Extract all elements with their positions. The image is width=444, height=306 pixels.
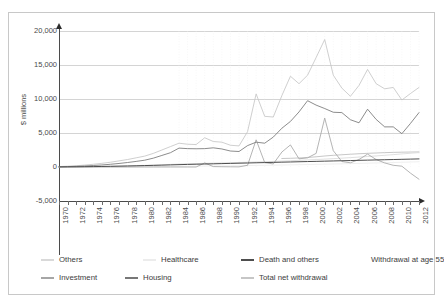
x-tick (119, 201, 120, 205)
x-tick (316, 201, 317, 205)
x-tick (145, 201, 146, 205)
x-tick (205, 201, 206, 205)
x-tick-label: 1980 (148, 207, 156, 224)
x-tick (376, 201, 377, 205)
legend-item-label: Withdrawal at age 55 (371, 253, 444, 267)
x-tick (68, 201, 69, 205)
legend-row-2: InvestmentHousingTotal net withdrawal (23, 271, 423, 287)
series-line (59, 40, 419, 167)
x-tick (196, 201, 197, 205)
x-tick (162, 201, 163, 205)
x-tick (128, 201, 129, 205)
x-tick-label: 1998 (302, 207, 310, 224)
x-tick (393, 201, 394, 205)
x-tick (290, 201, 291, 205)
x-tick (222, 201, 223, 205)
x-tick-label: 2012 (422, 207, 430, 224)
x-tick (299, 201, 300, 205)
legend-item-label: Housing (143, 271, 172, 285)
y-tick-label: 5,000 (23, 129, 57, 137)
x-tick-label: 2008 (388, 207, 396, 224)
legend-color-swatch (143, 259, 156, 261)
x-tick (410, 201, 411, 205)
x-tick (85, 201, 86, 205)
x-tick (325, 201, 326, 205)
x-tick-label: 2006 (371, 207, 379, 224)
x-tick-label: 1996 (285, 207, 293, 224)
x-tick (273, 201, 274, 205)
x-tick (170, 201, 171, 205)
x-tick (230, 201, 231, 205)
legend-color-swatch (41, 259, 54, 261)
x-tick-label: 1992 (251, 207, 259, 224)
x-tick (350, 201, 351, 205)
chart-figure-frame: $ millions 20,00015,00010,0005,0000-5,00… (8, 12, 435, 295)
x-tick (333, 201, 334, 205)
legend-item-label: Total net withdrawal (259, 271, 327, 285)
x-tick-label: 1984 (182, 207, 190, 224)
y-tick-label: 15,000 (23, 61, 57, 69)
x-tick (136, 201, 137, 205)
y-tick-label: 20,000 (23, 27, 57, 35)
x-tick (359, 201, 360, 205)
x-tick (153, 201, 154, 205)
chart-series-svg (59, 31, 419, 201)
x-tick (308, 201, 309, 205)
x-tick-label: 1970 (62, 207, 70, 224)
x-tick (188, 201, 189, 205)
legend-item-label: Others (59, 253, 82, 267)
x-tick (282, 201, 283, 205)
x-tick (213, 201, 214, 205)
x-tick-label: 2000 (319, 207, 327, 224)
x-tick-label: 1976 (113, 207, 121, 224)
legend-color-swatch (241, 277, 254, 279)
x-tick (179, 201, 180, 205)
x-tick (248, 201, 249, 205)
y-tick-label: 10,000 (23, 95, 57, 103)
x-tick (93, 201, 94, 205)
y-axis-arrow-icon (56, 23, 62, 29)
x-tick (102, 201, 103, 205)
x-tick (256, 201, 257, 205)
x-tick (265, 201, 266, 205)
legend-item-label: Death and others (259, 253, 319, 267)
legend-color-swatch (41, 277, 54, 279)
legend-color-swatch (125, 277, 138, 279)
x-tick (402, 201, 403, 205)
y-tick-label: -5,000 (23, 197, 57, 205)
legend-item-label: Healthcare (161, 253, 199, 267)
x-tick-label: 2002 (336, 207, 344, 224)
x-tick (385, 201, 386, 205)
x-tick-label: 2010 (405, 207, 413, 224)
y-tick-label: 0 (23, 163, 57, 171)
x-tick-label: 1982 (165, 207, 173, 224)
x-tick-label: 1978 (131, 207, 139, 224)
x-tick-label: 1974 (96, 207, 104, 224)
top-text-fragment (16, 0, 76, 8)
x-tick (342, 201, 343, 205)
legend-color-swatch (353, 259, 366, 261)
x-tick-label: 1988 (216, 207, 224, 224)
x-tick (239, 201, 240, 205)
legend-item-label: Investment (59, 271, 97, 285)
x-tick-label: 2004 (353, 207, 361, 224)
x-tick-label: 1990 (233, 207, 241, 224)
x-tick (110, 201, 111, 205)
x-tick-label: 1994 (268, 207, 276, 224)
x-tick (76, 201, 77, 205)
x-tick (59, 201, 60, 205)
x-tick (419, 201, 420, 205)
x-tick-label: 1986 (199, 207, 207, 224)
legend-color-swatch (241, 259, 254, 261)
x-tick-label: 1972 (79, 207, 87, 224)
chart-legend: OthersHealthcareDeath and othersWithdraw… (23, 253, 423, 291)
x-tick (368, 201, 369, 205)
legend-row-1: OthersHealthcareDeath and othersWithdraw… (23, 253, 423, 269)
